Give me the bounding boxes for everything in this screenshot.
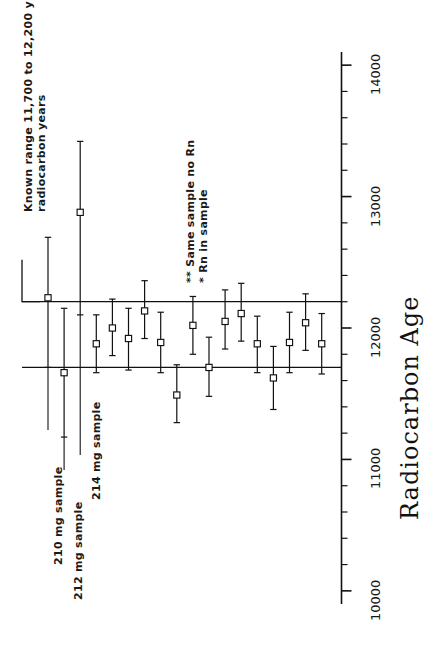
axis-tick-label: 14000: [368, 54, 383, 95]
data-marker-square: [319, 341, 325, 347]
axis-tick-label: 10000: [368, 579, 383, 620]
axis-tick-label: 12000: [368, 317, 383, 358]
known-range-leader: [22, 260, 40, 302]
known-range-band: [22, 302, 342, 368]
data-marker-square: [142, 308, 148, 314]
data-point: [206, 337, 212, 396]
data-point: [286, 312, 292, 372]
sample-label-214mg: 214 mg sample: [90, 402, 103, 500]
data-marker-square: [286, 339, 292, 345]
data-point: [45, 237, 51, 367]
axis-tick-label: 13000: [368, 185, 383, 226]
data-point: [77, 141, 83, 314]
data-point: [222, 290, 228, 349]
data-marker-square: [158, 339, 164, 345]
data-point: [61, 308, 67, 437]
sample-label-212mg: 212 mg sample: [72, 502, 85, 600]
data-marker-square: [125, 335, 131, 341]
axis-tick-marks: [342, 65, 352, 591]
legend-entry-same-sample-no-rn: ** Same sample no Rn: [184, 140, 197, 283]
legend-entry-rn-in-sample: * Rn in sample: [197, 189, 210, 283]
data-point: [109, 299, 115, 356]
data-marker-square: [254, 341, 260, 347]
data-marker-square: [303, 320, 309, 326]
known-range-note-line1: Known range 11,700 to 12,200 ybp: [22, 0, 35, 212]
data-point: [125, 308, 131, 370]
data-marker-square: [238, 310, 244, 316]
data-point: [93, 315, 99, 373]
data-marker-square: [93, 341, 99, 347]
data-marker-square: [206, 364, 212, 370]
known-range-note-line2: radiocarbon years: [35, 94, 48, 212]
data-marker-square: [190, 322, 196, 328]
data-point: [158, 312, 164, 372]
data-marker-square: [61, 370, 67, 376]
data-point: [238, 283, 244, 341]
axis-tick-label: 11000: [368, 448, 383, 489]
sample-label-210mg: 210 mg sample: [52, 467, 65, 565]
data-point: [319, 314, 325, 374]
data-marker-square: [109, 325, 115, 331]
data-point: [141, 281, 147, 339]
data-point: [174, 365, 180, 423]
data-marker-square: [45, 295, 51, 301]
data-point: [254, 316, 260, 373]
data-point: [270, 346, 276, 409]
data-marker-square: [222, 318, 228, 324]
data-marker-square: [77, 209, 83, 215]
data-marker-square: [270, 375, 276, 381]
data-point: [190, 296, 196, 354]
data-marker-square: [174, 392, 180, 398]
axis-title: Radiocarbon Age: [396, 296, 424, 520]
